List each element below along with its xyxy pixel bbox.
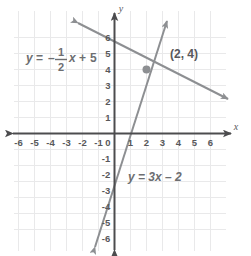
x-tick--6: -6 [14,137,22,148]
coordinate-plane-figure: x y -6 -5 -4 -3 -2 -1 1 2 3 4 5 6 0 1 2 … [0,0,251,256]
line-negative-half-x-plus-5 [78,23,228,99]
y-tick--5: -5 [102,217,111,228]
intersection-point-marker [143,66,151,74]
equation1-lhs: y [25,51,34,65]
x-tick-3: 3 [160,137,165,148]
equation1-variable: x [68,51,77,65]
graph-canvas: x y -6 -5 -4 -3 -2 -1 1 2 3 4 5 6 0 1 2 … [0,0,251,256]
equation1-numerator: 1 [58,46,64,58]
x-tick--4: -4 [46,137,55,148]
x-tick-2: 2 [144,137,149,148]
equation1-denominator: 2 [58,61,64,73]
equation-label-line2: y = 3x – 2 [127,170,182,184]
y-tick--3: -3 [102,185,110,196]
x-tick-6: 6 [208,137,213,148]
y-tick-labels-positive: 1 2 3 4 5 6 [105,32,111,123]
y-tick-6: 6 [105,32,110,43]
x-tick--5: -5 [30,137,39,148]
x-tick-5: 5 [192,137,198,148]
y-tick--1: -1 [102,153,111,164]
y-tick--6: -6 [102,233,110,244]
equation1-minus-sign: – [48,51,55,65]
equation1-plus: + [79,51,86,65]
x-tick--1: -1 [94,137,103,148]
y-axis-label: y [118,3,124,14]
x-tick--3: -3 [62,137,70,148]
y-tick-2: 2 [105,96,110,107]
x-tick-4: 4 [176,137,182,148]
y-tick--4: -4 [102,201,111,212]
equation1-equals: = [36,51,43,65]
y-tick-3: 3 [105,80,110,91]
y-tick-4: 4 [105,64,111,75]
y-tick--2: -2 [102,169,110,180]
y-tick-1: 1 [105,112,111,123]
x-tick-1: 1 [128,137,134,148]
x-axis-label: x [233,121,239,132]
y-tick-5: 5 [105,48,111,59]
equation-label-line1: y = – 1 2 x + 5 [25,46,97,73]
point-annotation-label: (2, 4) [170,47,198,61]
origin-label: 0 [105,137,110,148]
x-tick--2: -2 [78,137,86,148]
equation1-constant: 5 [90,51,97,65]
